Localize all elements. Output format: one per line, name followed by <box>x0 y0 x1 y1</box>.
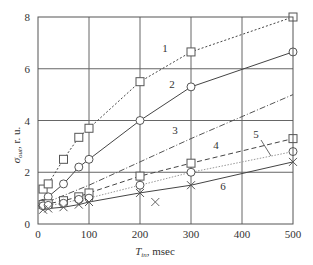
line-chart: 123456 010020030040050002468 Tin, msec σ… <box>0 0 313 265</box>
circle-marker <box>187 168 195 176</box>
x-tick-label: 0 <box>35 228 41 240</box>
x-marker <box>151 198 159 206</box>
y-tick-label: 0 <box>25 218 31 230</box>
circle-marker <box>60 180 68 188</box>
square-marker <box>75 133 83 141</box>
label-leader-line <box>261 140 271 156</box>
square-marker <box>136 78 144 86</box>
x-tick-label: 100 <box>81 228 98 240</box>
square-marker <box>85 124 93 132</box>
circle-marker <box>75 163 83 171</box>
square-marker <box>136 172 144 180</box>
series-label-2: 2 <box>169 78 175 90</box>
x-axis-title: Tin, msec <box>135 245 175 259</box>
y-axis-title: σout, r. u. <box>10 126 24 163</box>
circle-marker <box>60 199 68 207</box>
circle-marker <box>85 194 93 202</box>
square-marker <box>60 155 68 163</box>
series-labels: 123456 <box>162 42 271 192</box>
circle-marker <box>187 83 195 91</box>
circle-marker <box>136 117 144 125</box>
x-tick-label: 500 <box>285 228 302 240</box>
series-label-3: 3 <box>172 124 178 136</box>
series-label-4: 4 <box>213 139 219 151</box>
data-markers <box>39 13 297 214</box>
series-label-1: 1 <box>162 42 168 54</box>
square-marker <box>187 159 195 167</box>
y-tick-label: 8 <box>25 11 31 23</box>
x-tick-label: 200 <box>132 228 149 240</box>
square-marker <box>44 180 52 188</box>
series-label-5: 5 <box>253 128 259 140</box>
circle-marker <box>136 181 144 189</box>
circle-marker <box>85 155 93 163</box>
y-tick-label: 4 <box>25 115 31 127</box>
y-tick-label: 6 <box>25 63 31 75</box>
x-tick-label: 300 <box>183 228 200 240</box>
x-tick-label: 400 <box>234 228 251 240</box>
square-marker <box>187 48 195 56</box>
y-tick-label: 2 <box>25 166 31 178</box>
series-label-6: 6 <box>220 180 226 192</box>
